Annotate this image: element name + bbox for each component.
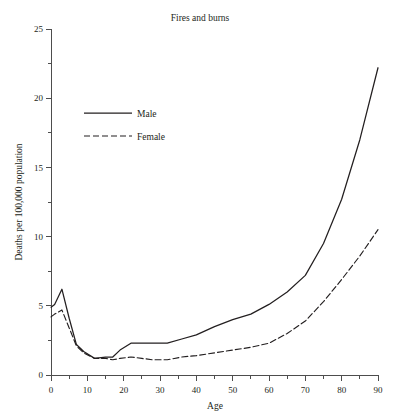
x-tick-label: 30 bbox=[156, 385, 166, 395]
y-tick-label: 5 bbox=[39, 301, 44, 311]
chart-figure: Fires and burns 0510152025 0102030405060… bbox=[0, 0, 400, 416]
y-tick-label: 0 bbox=[39, 370, 44, 380]
x-tick-label: 50 bbox=[228, 385, 238, 395]
x-tick-label: 90 bbox=[374, 385, 384, 395]
fires-and-burns-line-chart: Fires and burns 0510152025 0102030405060… bbox=[0, 0, 400, 416]
legend-label-female: Female bbox=[137, 132, 165, 142]
x-tick-label: 80 bbox=[337, 385, 347, 395]
x-tick-label: 0 bbox=[49, 385, 54, 395]
x-axis-label: Age bbox=[207, 401, 223, 411]
y-tick-label: 20 bbox=[34, 93, 44, 103]
x-tick-label: 20 bbox=[119, 385, 129, 395]
legend-label-male: Male bbox=[137, 109, 157, 119]
x-tick-label: 70 bbox=[301, 385, 311, 395]
chart-title: Fires and burns bbox=[171, 13, 230, 23]
y-axis-label: Deaths per 100,000 population bbox=[14, 143, 24, 260]
y-tick-label: 25 bbox=[34, 24, 44, 34]
x-tick-label: 60 bbox=[265, 385, 275, 395]
y-tick-label: 15 bbox=[34, 163, 44, 173]
x-tick-label: 40 bbox=[192, 385, 202, 395]
chart-background bbox=[0, 0, 400, 416]
y-tick-label: 10 bbox=[34, 232, 44, 242]
x-tick-label: 10 bbox=[83, 385, 93, 395]
